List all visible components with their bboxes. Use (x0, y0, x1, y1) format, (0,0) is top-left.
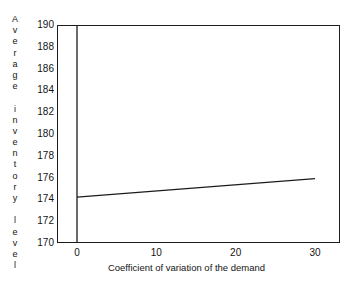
chart-figure: Average inventory level 1701721741761781… (0, 0, 351, 281)
x-tick-label: 30 (295, 247, 335, 259)
plot-canvas (0, 0, 351, 281)
x-tick-label: 20 (216, 247, 256, 259)
data-line-average-inventory-level (77, 179, 315, 198)
x-tick-label: 10 (136, 247, 176, 259)
x-tick-label: 0 (57, 247, 97, 259)
x-axis-tick-labels: 0102030 (0, 247, 351, 261)
x-axis-title: Coefficient of variation of the demand (0, 262, 351, 274)
